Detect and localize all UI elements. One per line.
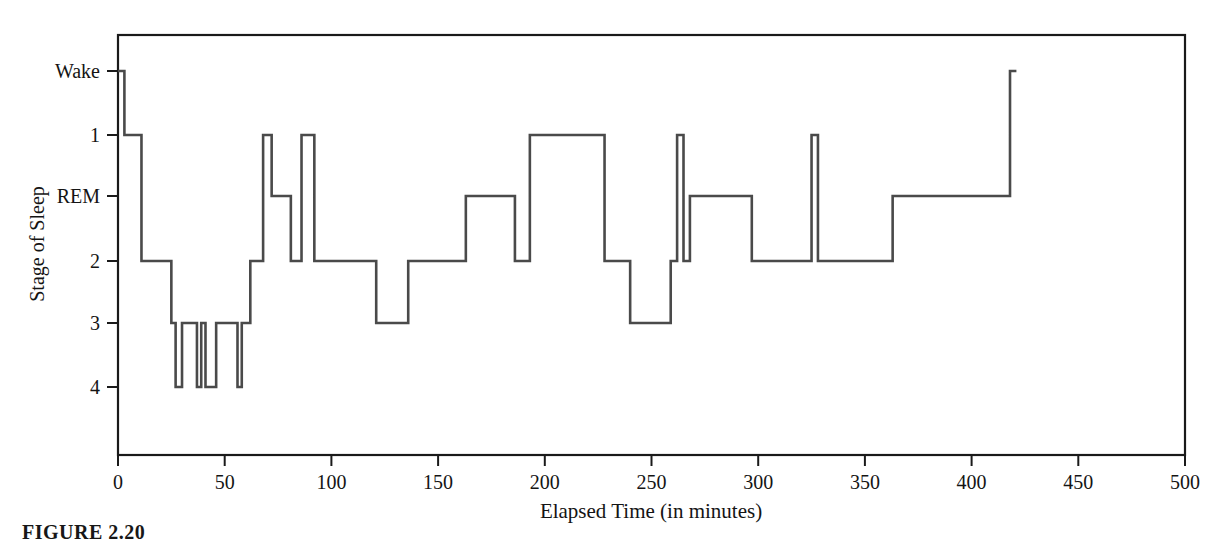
x-tick-label: 200 (530, 471, 560, 493)
y-tick-label: REM (57, 185, 101, 207)
y-tick-label: Wake (55, 60, 100, 82)
y-tick-label: 2 (90, 250, 100, 272)
y-tick-label: 1 (90, 124, 100, 146)
figure-container: Wake1REM234 0501001502002503003504004505… (0, 0, 1217, 552)
x-tick-label: 0 (113, 471, 123, 493)
x-tick-label: 450 (1063, 471, 1093, 493)
y-axis-title: Stage of Sleep (26, 186, 49, 302)
y-tick-label: 3 (90, 312, 100, 334)
x-axis-title: Elapsed Time (in minutes) (540, 499, 762, 523)
x-tick-label: 250 (637, 471, 667, 493)
x-tick-label: 100 (316, 471, 346, 493)
figure-caption: FIGURE 2.20 (22, 521, 145, 544)
x-tick-label: 150 (423, 471, 453, 493)
x-tick-label: 500 (1170, 471, 1200, 493)
sleep-stage-chart: Wake1REM234 0501001502002503003504004505… (0, 0, 1217, 552)
x-tick-label: 400 (957, 471, 987, 493)
y-tick-label: 4 (90, 376, 100, 398)
chart-background (0, 0, 1217, 552)
x-tick-label: 350 (850, 471, 880, 493)
x-tick-label: 300 (743, 471, 773, 493)
x-tick-label: 50 (215, 471, 235, 493)
